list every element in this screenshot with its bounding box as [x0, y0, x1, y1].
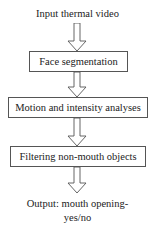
input-label: Input thermal video: [0, 7, 155, 20]
step-label: Filtering non-mouth objects: [19, 151, 136, 162]
step-box-motion-intensity: Motion and intensity analyses: [8, 97, 148, 118]
down-arrow-icon: [0, 167, 155, 194]
down-arrow-icon: [0, 23, 155, 52]
output-label-line2: yes/no: [0, 211, 155, 224]
down-arrow-icon: [0, 118, 155, 147]
output-label-line1: Output: mouth opening-: [0, 197, 155, 210]
down-arrow-icon: [0, 72, 155, 98]
step-box-face-segmentation: Face segmentation: [29, 51, 128, 72]
step-label: Motion and intensity analyses: [15, 102, 141, 113]
step-box-filtering: Filtering non-mouth objects: [10, 146, 146, 167]
step-label: Face segmentation: [39, 56, 117, 67]
